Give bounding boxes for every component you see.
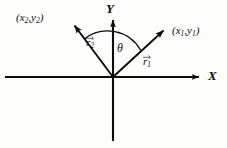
point-label-x1-y1: (x1,y1) [172,25,199,37]
x-axis-label: X [208,69,217,82]
vector-r1-overarrow-icon [143,55,151,59]
vector-r2-label: r2 [86,36,94,49]
vector-r1-label-sub: 1 [147,60,151,69]
vector-diagram-figure: Y X (x2,y2) (x1,y1) r2 r1 θ [0,0,227,148]
point-label-x1-y1-close: ) [196,24,200,36]
vector-r2-overarrow-icon [86,36,94,40]
point-label-x2-y2-close: ) [40,11,44,23]
point-label-x2-y2: (x2,y2) [16,12,43,24]
vector-r1-label: r1 [143,55,151,68]
y-axis-label: Y [106,2,114,15]
angle-theta-label: θ [117,42,123,54]
vector-r2-label-sub: 2 [90,41,94,50]
